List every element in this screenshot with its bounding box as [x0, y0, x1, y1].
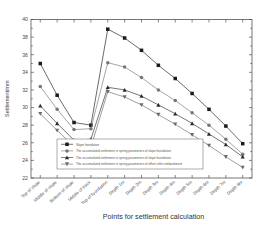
- data-point: [157, 64, 161, 68]
- data-point: [55, 108, 59, 112]
- x-tick-label-group: Depth 8m: [226, 179, 244, 196]
- x-tick-label-group: Depth 7m: [209, 179, 227, 196]
- x-tick-label: Depth 6m: [192, 179, 210, 196]
- data-point: [106, 27, 110, 31]
- data-point: [140, 49, 144, 53]
- data-point: [72, 128, 76, 132]
- x-tick-label-group: Depth 4m: [158, 179, 176, 196]
- legend-label: The accumulated settlement in spring par…: [76, 156, 171, 160]
- x-tick-label-group: Depth 1m: [108, 179, 126, 196]
- data-point: [55, 93, 59, 97]
- data-point: [241, 142, 245, 146]
- settlement-line-chart: 22242628303234363840Top of slopeMiddle o…: [0, 0, 270, 226]
- y-tick-label: 24: [22, 157, 28, 163]
- x-axis-title: Points for settlement calculation: [103, 212, 204, 221]
- y-tick-label: 28: [22, 122, 28, 128]
- data-point: [157, 88, 161, 92]
- legend-label: The accumulated settlement in spring par…: [76, 149, 171, 153]
- y-tick-label: 40: [22, 16, 28, 22]
- x-tick-label-group: Depth 2m: [125, 179, 143, 196]
- x-tick-label: Depth 1m: [108, 179, 126, 196]
- legend-marker: [65, 149, 69, 153]
- y-tick-label: 36: [22, 52, 28, 58]
- data-point: [207, 108, 211, 112]
- data-point: [190, 92, 194, 96]
- legend-marker: [65, 143, 69, 147]
- x-tick-label-group: Depth 3m: [142, 179, 160, 196]
- data-point: [190, 111, 194, 115]
- data-point: [207, 123, 211, 127]
- data-point: [123, 36, 127, 40]
- data-point: [173, 99, 177, 103]
- x-tick-label: Depth 4m: [158, 179, 176, 196]
- data-point: [224, 124, 228, 128]
- x-tick-label: Depth 3m: [142, 179, 160, 196]
- x-tick-label: Depth 2m: [125, 179, 143, 196]
- data-point: [173, 77, 177, 81]
- y-tick-label: 26: [22, 140, 28, 146]
- data-point: [224, 138, 228, 142]
- y-tick-label: 30: [22, 104, 28, 110]
- data-point: [72, 121, 76, 125]
- legend-label: The accumulated settlement in spring par…: [76, 162, 182, 166]
- data-point: [39, 62, 43, 66]
- data-point: [39, 85, 43, 89]
- chart-figure: 22242628303234363840Top of slopeMiddle o…: [0, 0, 270, 226]
- data-point: [140, 76, 144, 80]
- y-axis-title: Settlement/mm: [4, 80, 10, 117]
- x-tick-label: Depth 5m: [175, 179, 193, 196]
- x-tick-label-group: Depth 6m: [192, 179, 210, 196]
- y-tick-label: 38: [22, 34, 28, 40]
- x-tick-label: Depth 8m: [226, 179, 244, 196]
- x-tick-label-group: Depth 5m: [175, 179, 193, 196]
- data-point: [123, 65, 127, 69]
- y-tick-label: 34: [22, 69, 28, 75]
- data-point: [89, 127, 93, 131]
- legend-label: Slope foundation: [76, 143, 100, 147]
- y-tick-label: 32: [22, 87, 28, 93]
- x-tick-label: Depth 7m: [209, 179, 227, 196]
- data-point: [106, 61, 110, 64]
- y-tick-label: 22: [22, 175, 28, 181]
